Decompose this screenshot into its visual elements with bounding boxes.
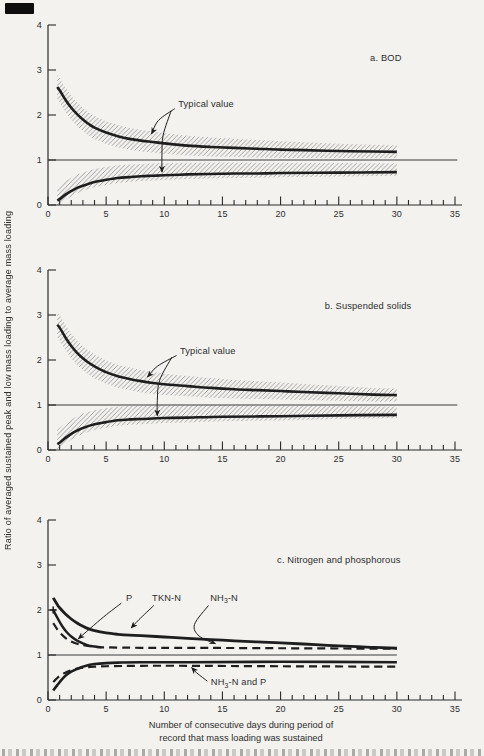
annotation-typical-value: Typical value (178, 99, 234, 109)
x-axis-label: Number of consecutive days during period… (0, 719, 482, 746)
y-tick-label: 4 (37, 515, 42, 525)
y-tick-label: 1 (37, 155, 42, 165)
x-tick-label: 0 (45, 704, 50, 714)
figure-scan: 0123405101520253035a. BODTypical value01… (0, 0, 484, 756)
x-tick-label: 30 (392, 209, 402, 219)
x-tick-label: 5 (104, 454, 109, 464)
x-tick-label: 20 (275, 704, 285, 714)
annotation-label-p: P (126, 593, 132, 603)
x-axis-label-line2: record that mass loading was sustained (0, 732, 482, 745)
x-tick-label: 35 (450, 704, 460, 714)
hatch-band-peak (57, 75, 397, 158)
x-tick-label: 25 (334, 454, 344, 464)
x-tick-label: 35 (450, 209, 460, 219)
annotation-label-tkn-n: TKN-N (152, 593, 181, 603)
x-tick-label: 30 (392, 704, 402, 714)
y-tick-label: 1 (37, 650, 42, 660)
y-axis-label: Ratio of averaged sustained peak and low… (3, 168, 13, 592)
y-tick-label: 4 (37, 265, 42, 275)
leader-arrow-leader-nh3-n-and-p (192, 668, 208, 682)
x-tick-label: 25 (334, 704, 344, 714)
annotation-label-nh3-n-and-p: NH3-N and P (211, 677, 267, 688)
annotation-panel-label: c. Nitrogen and phosphorous (277, 555, 401, 565)
x-tick-label: 5 (104, 704, 109, 714)
x-tick-label: 35 (450, 454, 460, 464)
x-tick-label: 15 (217, 209, 227, 219)
x-tick-label: 0 (45, 209, 50, 219)
figure-svg: 0123405101520253035a. BODTypical value01… (0, 0, 484, 756)
panel-c: 0123405101520253035c. Nitrogen and phosp… (37, 515, 462, 713)
y-tick-label: 0 (37, 445, 42, 455)
x-tick-label: 30 (392, 454, 402, 464)
y-tick-label: 4 (37, 20, 42, 30)
curve-tkn-n-peak (53, 598, 397, 648)
hatch-band-low (57, 405, 397, 450)
curve-p-peak (53, 610, 101, 647)
y-tick-label: 3 (37, 560, 42, 570)
x-tick-label: 20 (275, 454, 285, 464)
y-tick-label: 3 (37, 65, 42, 75)
annotation-label-nh3-n: NH3-N (210, 593, 238, 604)
leader-arrow-leader-tkn-n (131, 606, 154, 629)
x-tick-label: 20 (275, 209, 285, 219)
leader-arrow-typical-to-peak (151, 109, 174, 134)
x-tick-label: 10 (159, 454, 169, 464)
annotation-text-segment: -N and P (228, 677, 266, 687)
y-tick-label: 0 (37, 200, 42, 210)
y-tick-label: 1 (37, 400, 42, 410)
x-axis-label-line1: Number of consecutive days during period… (0, 719, 482, 732)
y-tick-label: 3 (37, 310, 42, 320)
y-tick-label: 2 (37, 605, 42, 615)
annotation-text-segment: NH (211, 677, 225, 687)
annotation-text-segment: NH (210, 593, 224, 603)
x-tick-label: 15 (217, 454, 227, 464)
panel-b: 0123405101520253035b. Suspended solidsTy… (37, 265, 462, 463)
x-tick-label: 5 (104, 209, 109, 219)
y-tick-label: 0 (37, 695, 42, 705)
x-tick-label: 10 (159, 704, 169, 714)
cropped-caption-edge (2, 749, 482, 756)
x-tick-label: 25 (334, 209, 344, 219)
y-tick-label: 2 (37, 110, 42, 120)
curve-nh3-n-and-p-low (53, 666, 397, 682)
x-tick-label: 0 (45, 454, 50, 464)
annotation-panel-label: b. Suspended solids (325, 301, 412, 311)
hatch-band-low (57, 163, 397, 206)
panel-a: 0123405101520253035a. BODTypical value (37, 20, 462, 218)
annotation-text-segment: -N (228, 593, 238, 603)
y-tick-label: 2 (37, 355, 42, 365)
x-tick-label: 10 (159, 209, 169, 219)
annotation-panel-label: a. BOD (370, 53, 402, 63)
x-tick-label: 15 (217, 704, 227, 714)
annotation-typical-value: Typical value (180, 346, 236, 356)
